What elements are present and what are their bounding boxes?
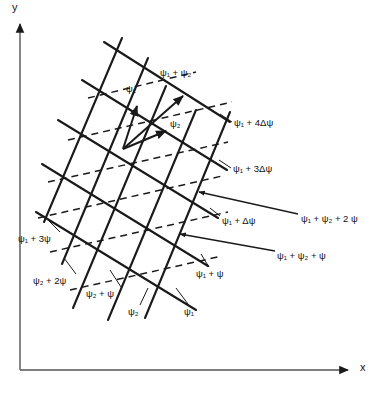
x-axis-label: x bbox=[360, 362, 366, 373]
steep-line-1 bbox=[44, 38, 122, 222]
psi-2-vector-arrow bbox=[123, 131, 166, 149]
label-psi1: ψ₁ bbox=[184, 307, 194, 317]
label-psi2: ψ₂ bbox=[128, 307, 138, 317]
psi-1-plus-psi-2-vector-label: ψ₁ + ψ₂ bbox=[160, 68, 191, 78]
figure-canvas bbox=[0, 0, 379, 395]
label-psi2-plus-2psi: ψ₂ + 2ψ bbox=[33, 276, 66, 286]
leader-psi2-2psi bbox=[64, 258, 76, 274]
label-psi2-plus-psi: ψ₂ + ψ bbox=[86, 289, 114, 299]
leader-psi2 bbox=[140, 288, 148, 305]
label-psi1-plus-psi2-plus-2psi: ψ₁ + ψ₂ + 2 ψ bbox=[301, 214, 358, 224]
psi-1-vector-label: ψ₁ bbox=[126, 84, 136, 94]
y-axis-label: y bbox=[12, 2, 18, 13]
callout-arrow-psi1-psi2-psi bbox=[180, 234, 275, 251]
shallow-line-5 bbox=[36, 212, 196, 310]
label-psi1-plus-3-delta-psi: ψ₁ + 3Δψ bbox=[233, 164, 272, 174]
label-psi1-plus-delta-psi: ψ₁ + Δψ bbox=[222, 216, 255, 226]
label-psi1-plus-psi2-plus-psi: ψ₁ + ψ₂ + ψ bbox=[277, 251, 326, 261]
label-psi1-plus-3psi: ψ₁ + 3ψ bbox=[18, 234, 51, 244]
lattice-vector-figure: y x ψ₁ ψ₂ ψ₁ + ψ₂ ψ₁ + 4Δψ ψ₁ + 3Δψ ψ₁ +… bbox=[0, 0, 379, 395]
label-psi1-plus-psi: ψ₁ + ψ bbox=[196, 269, 224, 279]
shallow-line-2 bbox=[82, 80, 227, 170]
psi-2-vector-label: ψ₂ bbox=[170, 119, 180, 129]
label-psi1-plus-4-delta-psi: ψ₁ + 4Δψ bbox=[234, 118, 273, 128]
